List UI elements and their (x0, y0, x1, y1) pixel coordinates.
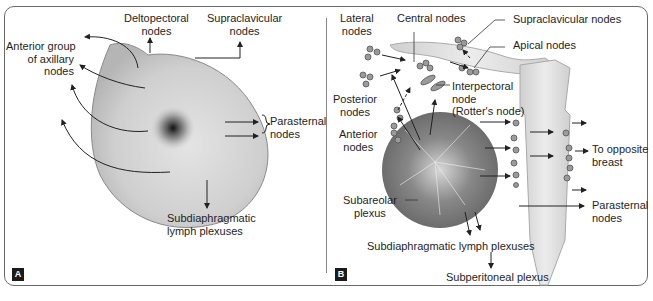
label-anterior-axillary-nodes: Anterior groupof axillarynodes (6, 40, 74, 78)
label-posterior-nodes: Posteriornodes (333, 93, 377, 118)
label-parasternal-nodes-b: Parasternalnodes (592, 199, 648, 224)
label-lateral-nodes: Lateralnodes (340, 12, 374, 37)
label-to-opposite-breast: To oppositebreast (592, 143, 648, 168)
label-subdiaphragmatic-b: Subdiaphragmatic lymph plexuses (367, 240, 535, 253)
panel-badge-b: B (335, 268, 347, 281)
label-supraclavicular-nodes-a: Supraclavicularnodes (207, 12, 282, 37)
breast-lobules-b (382, 112, 498, 228)
label-interpectoral-node: Interpectoralnode(Rotter's node) (452, 80, 524, 118)
label-subareolar-plexus: Subareolarplexus (343, 194, 397, 219)
label-central-nodes: Central nodes (397, 12, 466, 25)
label-anterior-nodes: Anteriornodes (339, 128, 378, 153)
label-parasternal-nodes-a: Parasternalnodes (270, 115, 326, 140)
label-subdiaphragmatic-a: Subdiaphragmaticlymph plexuses (167, 212, 256, 237)
panel-badge-a: A (12, 268, 24, 281)
label-apical-nodes: Apical nodes (513, 39, 576, 52)
label-subperitoneal-plexus: Subperitoneal plexus (446, 271, 549, 284)
label-deltopectoral-nodes: Deltopectoralnodes (124, 12, 189, 37)
breast-outline-a (91, 43, 268, 227)
label-supraclavicular-nodes-b: Supraclavicular nodes (513, 13, 621, 26)
